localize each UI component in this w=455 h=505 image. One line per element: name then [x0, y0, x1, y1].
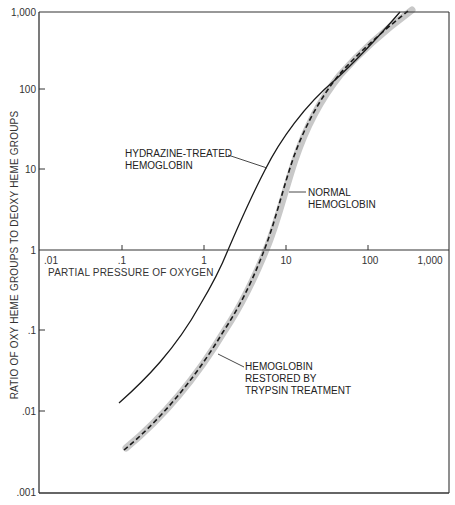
y-tick-100: 100 [19, 84, 36, 95]
oxygen-binding-chart: 1,000 100 10 1 .1 .01 .001 .01 .1 1 10 1… [0, 0, 455, 505]
y-tick-10: 10 [25, 164, 37, 175]
annotation-hydrazine: HYDRAZINE-TREATED HEMOGLOBIN [125, 148, 267, 171]
x-ticks [122, 245, 368, 250]
y-tick-0.01: .01 [22, 406, 36, 417]
x-tick-labels: .01 .1 1 10 100 1,000 [44, 255, 443, 266]
annotation-trypsin: HEMOGLOBIN RESTORED BY TRYPSIN TREATMENT [218, 354, 351, 396]
x-tick-0.01: .01 [44, 255, 58, 266]
y-tick-1000: 1,000 [11, 7, 36, 18]
svg-text:HYDRAZINE-TREATED: HYDRAZINE-TREATED [125, 148, 232, 159]
svg-text:HEMOGLOBIN: HEMOGLOBIN [125, 160, 193, 171]
x-tick-1: 1 [201, 255, 207, 266]
y-tick-1: 1 [30, 245, 36, 256]
y-tick-0.001: .001 [17, 487, 37, 498]
x-axis-title: PARTIAL PRESSURE OF OXYGEN [48, 267, 214, 278]
svg-text:HEMOGLOBIN: HEMOGLOBIN [308, 199, 376, 210]
x-tick-1000: 1,000 [417, 255, 442, 266]
y-axis-title: RATIO OF OXY HEME GROUPS TO DEOXY HEME G… [9, 111, 20, 400]
svg-text:NORMAL: NORMAL [308, 187, 351, 198]
x-tick-10: 10 [280, 255, 292, 266]
svg-text:RESTORED BY: RESTORED BY [245, 373, 317, 384]
x-tick-0.1: .1 [118, 255, 127, 266]
svg-text:TRYPSIN TREATMENT: TRYPSIN TREATMENT [245, 385, 351, 396]
x-tick-100: 100 [362, 255, 379, 266]
svg-text:HEMOGLOBIN: HEMOGLOBIN [245, 361, 313, 372]
y-tick-0.1: .1 [28, 325, 37, 336]
annotation-normal: NORMAL HEMOGLOBIN [289, 187, 376, 210]
